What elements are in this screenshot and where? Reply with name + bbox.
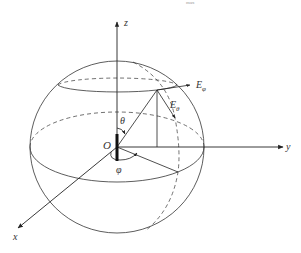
origin-label: O [103, 140, 111, 151]
z-axis-label: z [124, 18, 128, 28]
theta-label: θ [120, 116, 125, 126]
x-axis [18, 147, 117, 228]
diagram-graphic [0, 0, 301, 253]
theta-arc [117, 128, 125, 134]
e-theta-subscript: θ [176, 105, 179, 113]
latitude-front [58, 85, 177, 92]
phi-label: φ [116, 165, 122, 175]
e-phi-label: Eφ [196, 80, 206, 93]
spherical-coordinates-diagram: max [0, 0, 301, 253]
e-phi-subscript: φ [202, 85, 206, 93]
antenna-dipole [116, 134, 119, 161]
e-theta-label: Eθ [170, 100, 180, 113]
y-axis-label: y [286, 142, 290, 152]
latitude-back-dashed [58, 78, 177, 85]
x-axis-label: x [13, 232, 17, 242]
